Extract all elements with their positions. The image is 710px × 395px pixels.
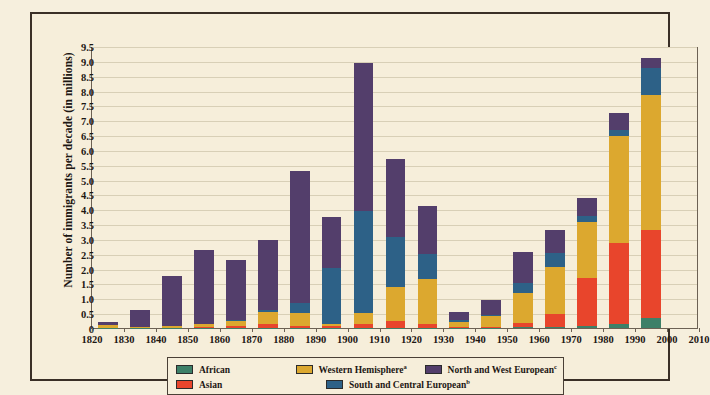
bar-1970s xyxy=(577,198,597,328)
bar-segment-north-and-west-european xyxy=(577,198,597,216)
x-axis-tick-mark xyxy=(443,328,444,332)
y-axis-tick-label: 1.5 xyxy=(54,279,94,290)
bar-segment-north-and-west-european xyxy=(386,159,406,237)
bar-segment-african xyxy=(609,324,629,328)
y-axis-tick-label: 6.0 xyxy=(54,145,94,156)
bar-1850s xyxy=(194,250,214,328)
x-axis-tick-mark xyxy=(699,328,700,332)
bar-segment-south-and-central-european xyxy=(418,254,438,279)
x-axis-tick-label: 1940 xyxy=(465,334,486,345)
bar-1880s xyxy=(290,171,310,328)
x-axis-tick-mark xyxy=(188,328,189,332)
y-axis-tick-label: 0 xyxy=(54,324,94,335)
y-axis-tick-label: 5.0 xyxy=(54,175,94,186)
gridline xyxy=(92,92,697,93)
chart-legend: African Western Hemispherea North and We… xyxy=(167,357,564,395)
y-axis-tick-label: 8.5 xyxy=(54,71,94,82)
y-axis-tick-label: 3.0 xyxy=(54,234,94,245)
bar-segment-western-hemisphere xyxy=(258,312,278,324)
legend-swatch-african xyxy=(176,365,193,374)
x-axis-tick-label: 1880 xyxy=(273,334,294,345)
bar-1890s xyxy=(322,217,342,328)
x-axis-tick-mark xyxy=(92,328,93,332)
legend-item-asian: Asian xyxy=(176,380,326,390)
x-axis-tick-label: 1820 xyxy=(82,334,103,345)
x-axis-tick-mark xyxy=(124,328,125,332)
bar-segment-asian xyxy=(641,230,661,318)
x-axis-tick-label: 1890 xyxy=(305,334,326,345)
bar-segment-asian xyxy=(609,243,629,324)
y-axis-tick-label: 7.0 xyxy=(54,116,94,127)
bar-1860s xyxy=(226,260,246,328)
legend-row-1: African Western Hemispherea North and We… xyxy=(176,362,557,377)
legend-label-south-central-european: South and Central Europeanb xyxy=(349,378,470,390)
x-axis-tick-mark xyxy=(603,328,604,332)
x-axis-tick-mark xyxy=(348,328,349,332)
plot-area: 00.51.01.52.02.53.03.54.04.55.05.56.06.5… xyxy=(91,47,698,329)
bar-segment-north-and-west-european xyxy=(226,260,246,320)
bar-segment-north-and-west-european xyxy=(258,240,278,311)
y-axis-tick-label: 4.0 xyxy=(54,205,94,216)
bar-segment-western-hemisphere xyxy=(418,279,438,324)
x-axis-tick-label: 1910 xyxy=(369,334,390,345)
legend-label-north-west-european: North and West Europeanc xyxy=(448,363,557,375)
x-axis-tick-mark xyxy=(316,328,317,332)
legend-label-asian: Asian xyxy=(199,380,222,390)
bar-1870s xyxy=(258,240,278,328)
bar-segment-north-and-west-european xyxy=(481,300,501,315)
x-axis-tick-mark xyxy=(220,328,221,332)
bar-1990s xyxy=(641,58,661,328)
bar-segment-western-hemisphere xyxy=(577,222,597,278)
legend-label-western-hemisphere: Western Hemispherea xyxy=(319,363,407,375)
legend-item-north-west-european: North and West Europeanc xyxy=(425,363,557,375)
legend-label-african: African xyxy=(199,365,230,375)
x-axis-tick-mark xyxy=(252,328,253,332)
bar-segment-western-hemisphere xyxy=(386,287,406,321)
x-axis-tick-label: 1950 xyxy=(497,334,518,345)
x-axis-tick-mark xyxy=(284,328,285,332)
gridline xyxy=(92,136,697,137)
legend-swatch-north-west-european xyxy=(425,365,442,374)
y-axis-tick-label: 0.5 xyxy=(54,309,94,320)
x-axis-tick-mark xyxy=(156,328,157,332)
bar-1840s xyxy=(162,276,182,328)
y-axis-tick-label: 5.5 xyxy=(54,160,94,171)
gridline xyxy=(92,47,697,48)
x-axis-tick-label: 1900 xyxy=(337,334,358,345)
bar-segment-south-and-central-european xyxy=(386,237,406,287)
bar-segment-north-and-west-european xyxy=(194,250,214,324)
legend-item-south-central-european: South and Central Europeanb xyxy=(326,378,488,390)
bar-1910s xyxy=(386,159,406,328)
bar-segment-north-and-west-european xyxy=(449,312,469,321)
legend-row-2: Asian South and Central Europeanb xyxy=(176,377,557,392)
legend-item-western-hemisphere: Western Hemispherea xyxy=(296,363,425,375)
bar-1920s xyxy=(418,206,438,328)
gridline xyxy=(92,62,697,63)
bar-segment-north-and-west-european xyxy=(545,230,565,253)
x-axis-tick-mark xyxy=(635,328,636,332)
bar-segment-north-and-west-european xyxy=(322,217,342,268)
x-axis-tick-label: 1980 xyxy=(593,334,614,345)
bar-segment-north-and-west-european xyxy=(513,252,533,283)
x-axis-tick-mark xyxy=(475,328,476,332)
y-axis-tick-label: 2.0 xyxy=(54,264,94,275)
x-axis-tick-mark xyxy=(507,328,508,332)
x-axis-tick-mark xyxy=(539,328,540,332)
bar-1940s xyxy=(481,300,501,328)
gridline xyxy=(92,121,697,122)
bar-segment-asian xyxy=(577,278,597,325)
x-axis-tick-label: 1840 xyxy=(145,334,166,345)
bar-1820s xyxy=(98,322,118,328)
bar-segment-south-and-central-european xyxy=(545,253,565,267)
bar-segment-south-and-central-european xyxy=(290,303,310,313)
bar-segment-south-and-central-european xyxy=(513,283,533,293)
bar-segment-asian xyxy=(386,321,406,328)
bar-segment-north-and-west-european xyxy=(609,113,629,131)
bar-segment-asian xyxy=(545,314,565,327)
x-axis-tick-label: 2010 xyxy=(689,334,710,345)
bar-segment-western-hemisphere xyxy=(290,313,310,326)
y-axis-tick-label: 2.5 xyxy=(54,249,94,260)
bar-segment-western-hemisphere xyxy=(513,293,533,323)
x-axis-tick-label: 1850 xyxy=(177,334,198,345)
